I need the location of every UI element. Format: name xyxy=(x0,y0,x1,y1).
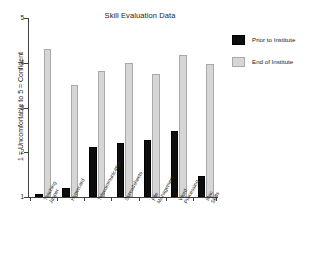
y-tick-label: 3 xyxy=(20,104,24,111)
legend-label: Prior to Institute xyxy=(252,36,295,43)
category-label: MacSkills xyxy=(205,188,221,204)
bars-layer xyxy=(28,18,218,197)
bar xyxy=(179,55,187,197)
legend-item[interactable]: End of Institute xyxy=(232,56,314,68)
bar xyxy=(44,49,52,197)
legend-swatch xyxy=(232,35,245,45)
bar xyxy=(152,74,160,197)
bar xyxy=(144,140,152,197)
bar xyxy=(206,64,214,197)
x-axis-category-labels: TeachingJasperHypercardTelecommunication… xyxy=(28,199,228,257)
y-tick-mark xyxy=(24,197,29,198)
plot-area: 12345 xyxy=(28,18,218,197)
bar xyxy=(35,194,43,197)
bar xyxy=(98,71,106,197)
legend-label: End of Institute xyxy=(252,58,293,65)
y-tick-label: 1 xyxy=(20,194,24,201)
chart-legend: Prior to InstituteEnd of Institute xyxy=(232,34,314,78)
y-tick-label: 4 xyxy=(20,60,24,67)
bar xyxy=(198,176,206,197)
y-tick-label: 5 xyxy=(20,15,24,22)
legend-item[interactable]: Prior to Institute xyxy=(232,34,314,46)
legend-swatch xyxy=(232,57,245,67)
bar xyxy=(171,131,179,197)
bar xyxy=(125,63,133,197)
bar xyxy=(89,147,97,197)
chart-figure: Skill Evaluation Data 1 = Uncomfortable … xyxy=(0,0,316,259)
bar xyxy=(71,85,79,197)
y-tick-label: 2 xyxy=(20,149,24,156)
bar xyxy=(62,188,70,197)
